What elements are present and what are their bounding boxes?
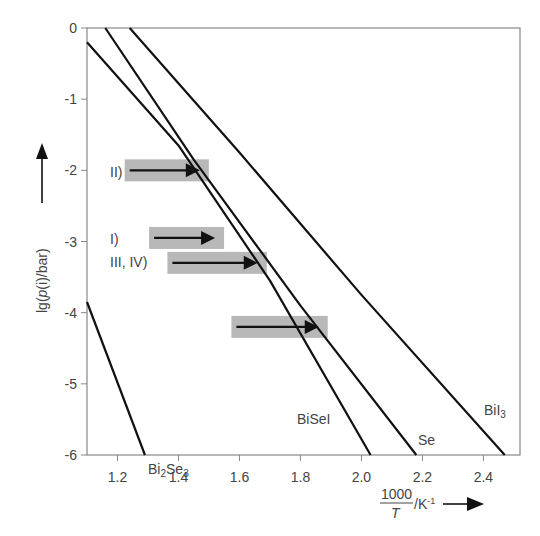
y-tick-label: -2 — [65, 162, 78, 178]
y-tick-label: -4 — [65, 305, 78, 321]
y-tick-label: -1 — [65, 91, 78, 107]
label-bi2se3: Bi2Se3 — [148, 461, 189, 479]
x-tick-label: 1.8 — [291, 469, 311, 485]
svg-text:lg(p(i)/bar): lg(p(i)/bar) — [34, 248, 50, 313]
vapor-pressure-chart: 0-1-2-3-4-5-6 1.21.41.61.82.02.22.4 Bi2S… — [0, 0, 540, 536]
x-tick-label: 1.2 — [108, 469, 128, 485]
label-bii3: BiI3 — [484, 402, 506, 420]
label-se: Se — [418, 432, 435, 448]
y-axis: 0-1-2-3-4-5-6 — [65, 20, 87, 463]
y-tick-label: -5 — [65, 376, 78, 392]
label-biseI: BiSeI — [297, 411, 330, 427]
y-tick-label: 0 — [69, 20, 77, 36]
arrow-annotations — [125, 159, 328, 338]
svg-text:1000: 1000 — [381, 486, 412, 502]
x-axis-title: 1000 T /K-1 — [380, 486, 484, 521]
x-tick-label: 2.4 — [474, 469, 494, 485]
x-tick-label: 1.6 — [230, 469, 250, 485]
x-tick-label: 2.0 — [352, 469, 372, 485]
svg-text:/K-1: /K-1 — [414, 496, 435, 512]
svg-text:T: T — [391, 505, 401, 521]
y-tick-label: -6 — [65, 447, 78, 463]
curve-bisei — [87, 42, 371, 455]
annotation-label-ii: II) — [110, 164, 122, 180]
annotation-label-iii-iv: III, IV) — [110, 254, 147, 270]
y-axis-title: lg(p(i)/bar) — [34, 143, 50, 313]
annotation-label-i: I) — [110, 231, 119, 247]
x-tick-label: 2.2 — [413, 469, 433, 485]
curve-bi2se3 — [87, 302, 145, 455]
y-tick-label: -3 — [65, 234, 78, 250]
